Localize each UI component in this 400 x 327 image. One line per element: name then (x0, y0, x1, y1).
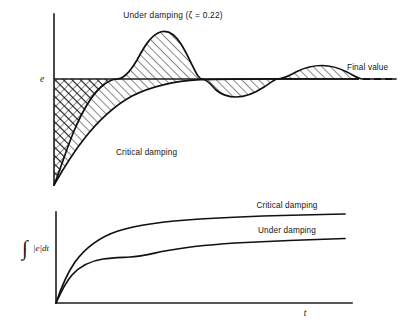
final-value-label: Final value (347, 63, 389, 72)
damping-comparison-figure: Under damping (ζ = 0.22) e Final value C… (0, 0, 400, 327)
integral-sign-icon: ∫ (20, 236, 29, 261)
figure-root: Under damping (ζ = 0.22) e Final value C… (0, 0, 400, 327)
lower-y-axis-label-group: ∫ |e|dt (20, 236, 49, 261)
lower-under-damping-label: Under damping (258, 226, 316, 235)
integral-operand-label: |e|dt (33, 243, 49, 253)
upper-y-axis-label: e (40, 74, 44, 84)
lower-chart-panel: ∫ |e|dt t Critical damping Under damping (20, 201, 352, 318)
upper-critical-damping-label: Critical damping (116, 148, 177, 157)
lower-under-damping-curve (56, 239, 345, 304)
upper-chart-panel: Under damping (ζ = 0.22) e Final value C… (40, 10, 396, 188)
lower-x-axis-label: t (304, 308, 307, 318)
lower-critical-damping-label: Critical damping (256, 201, 317, 210)
upper-chart-title: Under damping (ζ = 0.22) (123, 10, 223, 20)
